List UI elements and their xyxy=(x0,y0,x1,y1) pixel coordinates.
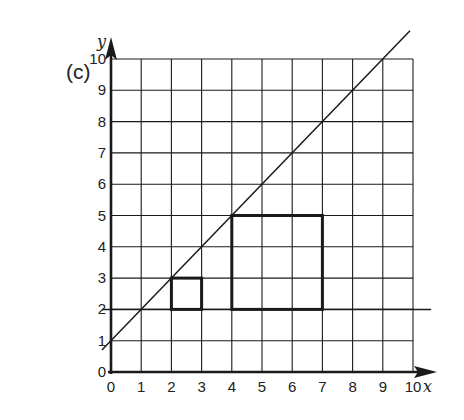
y-tick-label: 2 xyxy=(98,300,106,317)
x-tick-label: 5 xyxy=(258,378,266,395)
x-tick-label: 0 xyxy=(107,378,115,395)
axes xyxy=(105,37,437,378)
x-tick-label: 6 xyxy=(288,378,296,395)
y-tick-label: 10 xyxy=(89,50,106,67)
y-tick-label: 6 xyxy=(98,175,106,192)
x-tick-label: 4 xyxy=(228,378,236,395)
x-tick-label: 9 xyxy=(379,378,387,395)
x-tick-label: 1 xyxy=(137,378,145,395)
y-tick-label: 4 xyxy=(98,238,106,255)
shapes xyxy=(102,31,431,350)
y-tick-label: 3 xyxy=(98,269,106,286)
x-tick-label: 10 xyxy=(405,378,422,395)
y-tick-label: 0 xyxy=(98,363,106,380)
part-label: (c) xyxy=(66,60,91,83)
coordinate-diagram: 012345678910012345678910 (c) y x xyxy=(0,0,464,420)
x-tick-label: 7 xyxy=(318,378,326,395)
y-tick-label: 8 xyxy=(98,113,106,130)
small-square xyxy=(171,278,201,309)
line-y-equals-x-plus-1 xyxy=(102,31,410,350)
y-tick-label: 5 xyxy=(98,207,106,224)
tick-labels: 012345678910012345678910 xyxy=(89,50,421,395)
x-tick-label: 3 xyxy=(197,378,205,395)
x-axis-label: x xyxy=(423,377,432,396)
x-tick-label: 2 xyxy=(167,378,175,395)
y-axis-label: y xyxy=(96,32,107,51)
y-tick-label: 7 xyxy=(98,144,106,161)
y-tick-label: 1 xyxy=(98,332,106,349)
large-square xyxy=(232,216,323,310)
x-tick-label: 8 xyxy=(348,378,356,395)
y-tick-label: 9 xyxy=(98,81,106,98)
